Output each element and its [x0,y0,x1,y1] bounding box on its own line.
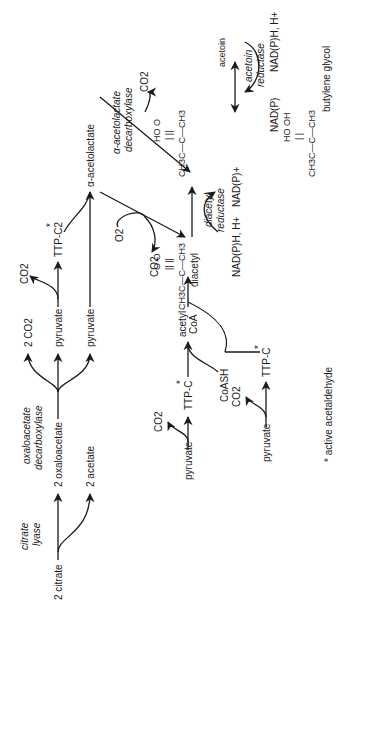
curve-ttpc2-acetolactate [64,192,90,232]
node-nadph-ar: NAD(P)H, H+ [269,12,280,72]
node-butylene-glycol: butylene glycol [321,46,332,112]
node-citrate: 2 citrate [53,564,64,600]
enzyme-oaa-decarb-1: oxaloacetate [21,407,32,464]
enzyme-diacetyl-red-1: diacetyl [203,192,214,227]
node-oxaloacetate: 2 oxaloacetate [53,422,64,487]
node-nadp-ar: NAD(P) [269,98,280,132]
enzyme-citrate-lyase-2: lyase [31,522,42,546]
acetoin-top: HO O [152,119,162,142]
node-acetyl: acetyl [177,311,188,337]
arrow-pyruvate-co2-b1 [168,422,188,442]
bg-bot: CH3C—C—CH3 [307,110,317,177]
node-co2-b2: CO2 [231,386,242,407]
enzyme-citrate-lyase-1: citrate [19,522,30,550]
footnote: * active acetaldehyde [323,366,334,462]
diacetyl-bot: CH3C—C—CH3 [177,243,187,310]
star-ttp-c-b1: * [175,380,186,384]
node-acetate: 2 acetate [85,445,96,487]
acetoin-mid: | || [164,130,174,140]
arrow-pyruvate-co2 [30,276,58,299]
node-2co2: 2 CO2 [23,318,34,347]
acetoin-pathway-diagram: 2 citrate citrate lyase 2 oxaloacetate 2… [0,0,381,732]
arrow-aal-co2 [145,92,150,112]
enzyme-aal-decarb-2: decarboxylase [123,87,134,152]
star-ttp-c2: * [45,223,56,227]
star-ttp-c-b2: * [253,345,264,349]
diacetyl-mid: || || [164,258,174,270]
arrow-pyruvate-co2-b2 [246,397,266,417]
enzyme-diacetyl-red-2: reductase [215,188,226,232]
diacetyl-top: O O [152,253,162,270]
enzyme-oaa-decarb-2: decarboxylase [33,405,44,470]
arrow-oaa-co2 [28,354,58,392]
node-o2: O2 [114,228,125,242]
arrow-citrate-acetate [58,494,90,552]
arrow-oaa-pyruvate-2 [58,354,90,392]
node-co2-dec: CO2 [139,71,150,92]
node-co2-b1: CO2 [153,411,164,432]
curve-coash [188,347,218,372]
node-nadp-dr: NAD(P)+ [231,167,242,207]
node-acetolactate: α-acetolactate [85,124,96,187]
enzyme-aal-decarb-1: α-acetolactate [111,91,122,154]
node-ttp-c-b2: TTP-C [261,348,272,377]
acetoin-bot: CH3C—C—CH3 [177,110,187,177]
node-diacetyl: diacetyl [189,253,200,287]
enzyme-acetoin-red-2: reductase [255,43,266,87]
node-coash: CoASH [219,369,230,402]
node-nadph-dr: NAD(P)H, H+ [231,217,242,277]
enzyme-acetoin-red-1: acetoin [243,49,254,82]
node-co2-pyr: CO2 [19,263,30,284]
node-pyruvate-b2: pyruvate [261,423,272,462]
bg-mid: | | [294,133,304,140]
node-pyruvate-top: pyruvate [53,308,64,347]
node-coa: CoA [188,314,199,334]
node-acetoin: acetoin [217,38,227,67]
node-pyruvate-mid: pyruvate [85,308,96,347]
bg-top: HO OH [282,112,292,142]
arrow-acetolactate-diacetyl [100,192,185,237]
